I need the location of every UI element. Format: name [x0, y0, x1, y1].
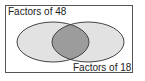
set-b-label: Factors of 18: [73, 62, 131, 73]
set-a-label: Factors of 48: [8, 6, 66, 17]
